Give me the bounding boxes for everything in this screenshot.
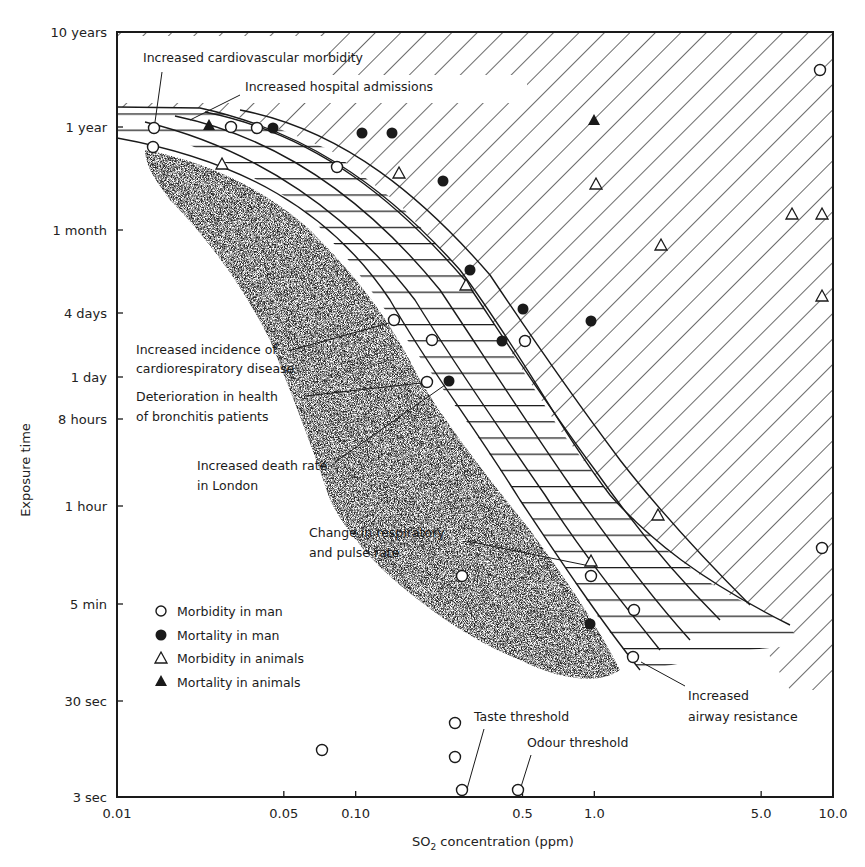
- filled-circle-marker-icon: [438, 176, 449, 187]
- y-tick-label: 1 month: [52, 223, 107, 238]
- open-circle-marker-icon: [389, 315, 400, 326]
- annotation-label: Increased incidence of: [136, 342, 277, 357]
- open-circle-marker-icon: [815, 65, 826, 76]
- legend-open-triangle-icon: [155, 652, 167, 663]
- legend-label-2: Morbidity in animals: [177, 651, 304, 666]
- open-circle-marker-icon: [226, 122, 237, 133]
- annotation-label: Increased cardiovascular morbidity: [143, 50, 364, 65]
- y-tick-label: 8 hours: [58, 412, 107, 427]
- x-tick-label: 0.10: [341, 806, 370, 821]
- open-circle-marker-icon: [422, 377, 433, 388]
- open-circle-marker-icon: [457, 785, 468, 796]
- open-circle-marker-icon: [149, 123, 160, 134]
- open-circle-marker-icon: [317, 745, 328, 756]
- filled-circle-marker-icon: [497, 336, 508, 347]
- y-axis: 10 years1 year1 month4 days1 day8 hours1…: [51, 25, 123, 805]
- open-circle-marker-icon: [628, 652, 639, 663]
- annotation-label: Change in respiratory: [309, 525, 445, 540]
- x-axis-title-rest: concentration (ppm): [436, 834, 574, 849]
- filled-circle-marker-icon: [465, 265, 476, 276]
- x-tick-label: 0.01: [103, 806, 132, 821]
- open-circle-marker-icon: [450, 718, 461, 729]
- filled-circle-marker-icon: [586, 316, 597, 327]
- annotation-label: and pulse rate: [309, 545, 400, 560]
- open-circle-marker-icon: [457, 571, 468, 582]
- y-axis-title: Exposure time: [18, 423, 33, 517]
- y-tick-label: 5 min: [70, 597, 107, 612]
- y-tick-label: 1 day: [71, 370, 108, 385]
- x-tick-label: 5.0: [751, 806, 772, 821]
- filled-circle-marker-icon: [268, 123, 279, 134]
- legend: Morbidity in man Mortality in man Morbid…: [155, 604, 304, 690]
- filled-circle-marker-icon: [444, 376, 455, 387]
- x-tick-label: 0.5: [512, 806, 533, 821]
- y-tick-label: 30 sec: [64, 694, 107, 709]
- x-tick-label: 0.05: [269, 806, 298, 821]
- open-circle-marker-icon: [586, 571, 597, 582]
- x-axis: 0.010.050.100.51.05.010.0: [103, 791, 848, 821]
- y-tick-label: 10 years: [51, 25, 108, 40]
- filled-circle-marker-icon: [357, 128, 368, 139]
- open-circle-marker-icon: [513, 785, 524, 796]
- open-circle-marker-icon: [148, 142, 159, 153]
- legend-label-3: Mortality in animals: [177, 675, 301, 690]
- open-circle-marker-icon: [450, 752, 461, 763]
- open-circle-marker-icon: [629, 605, 640, 616]
- open-circle-marker-icon: [252, 123, 263, 134]
- filled-circle-marker-icon: [387, 128, 398, 139]
- open-circle-marker-icon: [817, 543, 828, 554]
- filled-circle-marker-icon: [585, 619, 596, 630]
- legend-label-0: Morbidity in man: [177, 604, 283, 619]
- annotation-label: Increased death rate: [197, 458, 328, 473]
- x-axis-title: SO2 concentration (ppm): [412, 834, 574, 852]
- annotation-label: of bronchitis patients: [136, 409, 269, 424]
- y-tick-label: 3 sec: [73, 790, 107, 805]
- annotation-label: cardiorespiratory disease: [136, 361, 295, 376]
- x-tick-label: 10.0: [819, 806, 848, 821]
- legend-filled-circle-icon: [156, 630, 167, 641]
- annotation-label: Deterioration in health: [136, 389, 278, 404]
- annotation-label: Odour threshold: [527, 735, 628, 750]
- open-circle-marker-icon: [332, 162, 343, 173]
- filled-circle-marker-icon: [518, 304, 529, 315]
- y-tick-label: 1 hour: [65, 499, 108, 514]
- chart: 10 years1 year1 month4 days1 day8 hours1…: [0, 0, 865, 867]
- legend-open-circle-icon: [156, 606, 166, 616]
- legend-filled-triangle-icon: [155, 675, 167, 686]
- annotation-label: Taste threshold: [473, 709, 569, 724]
- x-tick-label: 1.0: [584, 806, 605, 821]
- open-circle-marker-icon: [427, 335, 438, 346]
- annotation-label: airway resistance: [688, 709, 798, 724]
- open-circle-marker-icon: [520, 336, 531, 347]
- annotation-label: in London: [197, 478, 258, 493]
- x-axis-title-so: SO: [412, 834, 430, 849]
- annotation-label: Increased hospital admissions: [245, 79, 433, 94]
- legend-label-1: Mortality in man: [177, 628, 279, 643]
- y-tick-label: 4 days: [64, 306, 107, 321]
- y-tick-label: 1 year: [66, 120, 108, 135]
- annotation-label: Increased: [688, 688, 749, 703]
